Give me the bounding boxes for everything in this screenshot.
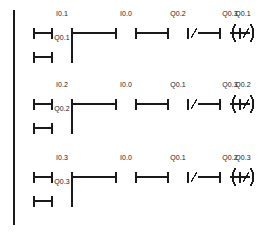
nc-slash-marker — [191, 28, 197, 38]
rung-3-branch-contact — [52, 196, 72, 207]
rung-2-rail-contact — [14, 99, 34, 110]
rung-1-main-contact-label: I0.1 — [56, 10, 68, 18]
rung-3-rail-contact — [14, 172, 34, 183]
rung-2-branch-rail-contact — [14, 123, 34, 134]
rung-1-branch-rail-contact — [14, 52, 34, 63]
rung-3-series-0-no-contact — [116, 172, 136, 183]
rung-1-series-1-nc-contact — [168, 28, 197, 39]
rung-2-series-0-label: I0.0 — [120, 81, 132, 89]
rung-2-series-0-no-contact — [116, 99, 136, 110]
rung-1-rail-contact — [14, 28, 34, 39]
rung-1-branch-contact — [52, 52, 72, 63]
coil-right-arc — [251, 169, 254, 185]
rung-3-series-0-label: I0.0 — [120, 154, 132, 162]
rung-3-series-1-label: Q0.1 — [170, 154, 186, 162]
nc-slash-marker — [191, 172, 197, 182]
nc-slash-marker — [191, 99, 197, 109]
coil-right-arc — [251, 25, 254, 41]
rung-2-branch-contact — [52, 123, 72, 134]
ladder-diagram-canvas — [0, 0, 268, 233]
rung-1-series-0-label: I0.0 — [120, 10, 132, 18]
rung-1-coil-label: Q0.1 — [235, 10, 251, 18]
rung-3-main-contact-label: I0.3 — [56, 154, 68, 162]
rung-1-series-0-no-contact — [116, 28, 136, 39]
rung-3-branch-rail-contact — [14, 196, 34, 207]
rung-3-branch-contact-label: Q0.3 — [54, 178, 70, 186]
rung-2-series-1-label: Q0.1 — [170, 81, 186, 89]
rung-2-coil-label: Q0.2 — [235, 81, 251, 89]
rung-3-series-1-nc-contact — [168, 172, 197, 183]
rung-3-coil-label: Q0.3 — [235, 154, 251, 162]
rung-1-branch-contact-label: Q0.1 — [54, 34, 70, 42]
rung-2-main-contact-label: I0.2 — [56, 81, 68, 89]
rung-2-branch-contact-label: Q0.2 — [54, 105, 70, 113]
rung-2-series-1-nc-contact — [168, 99, 197, 110]
rung-1-series-1-label: Q0.2 — [170, 10, 186, 18]
ladder-logic-diagram: I0.1Q0.1I0.0Q0.2Q0.3Q0.1I0.2Q0.2I0.0Q0.1… — [0, 0, 268, 233]
coil-right-arc — [251, 96, 254, 112]
